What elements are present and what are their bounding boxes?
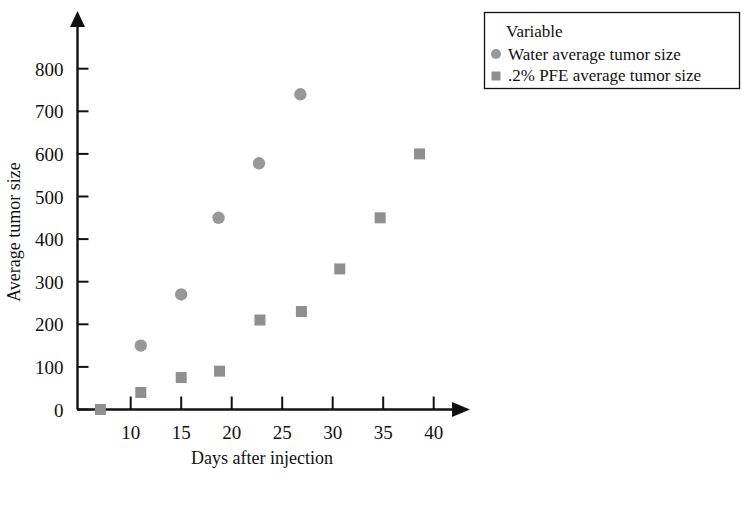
data-point-square: [254, 315, 265, 326]
data-point-circle: [294, 88, 306, 100]
y-tick-label: 0: [54, 400, 64, 421]
x-axis-title: Days after injection: [191, 448, 333, 468]
data-point-square: [214, 366, 225, 377]
data-point-circle: [253, 157, 265, 169]
x-tick-group: 10152025303540: [121, 397, 443, 443]
y-tick-label: 800: [35, 59, 64, 80]
y-tick-label: 600: [35, 144, 64, 165]
legend-label-pfe: .2% PFE average tumor size: [508, 66, 701, 85]
scatter-chart: 0100200300400500600700800 10152025303540…: [0, 0, 750, 510]
data-point-square: [296, 306, 307, 317]
data-point-square: [414, 148, 425, 159]
x-tick-label: 10: [121, 422, 140, 443]
legend-title: Variable: [506, 22, 563, 41]
y-tick-group: 0100200300400500600700800: [35, 59, 89, 421]
data-point-square: [135, 387, 146, 398]
legend-label-water: Water average tumor size: [508, 45, 681, 64]
data-point-square: [375, 212, 386, 223]
x-tick-label: 35: [374, 422, 393, 443]
x-axis-arrow-icon: [452, 402, 470, 417]
y-tick-label: 400: [35, 229, 64, 250]
y-tick-label: 200: [35, 314, 64, 335]
y-tick-label: 100: [35, 357, 64, 378]
chart-canvas: 0100200300400500600700800 10152025303540…: [0, 0, 750, 510]
y-axis-title: Average tumor size: [4, 162, 24, 302]
data-points-layer: [95, 88, 425, 415]
data-point-circle: [175, 288, 187, 300]
axis-group: [70, 11, 470, 417]
legend: Variable Water average tumor size .2% PF…: [485, 13, 740, 89]
x-tick-label: 15: [172, 422, 191, 443]
data-point-circle: [212, 212, 224, 224]
legend-circle-marker-icon: [491, 49, 501, 59]
y-axis-arrow-icon: [70, 11, 85, 27]
data-point-circle: [135, 339, 147, 351]
y-tick-label: 500: [35, 187, 64, 208]
data-point-square: [95, 404, 106, 415]
data-point-square: [176, 372, 187, 383]
x-tick-label: 30: [323, 422, 342, 443]
data-point-square: [334, 263, 345, 274]
y-tick-label: 700: [35, 101, 64, 122]
x-tick-label: 25: [273, 422, 292, 443]
legend-square-marker-icon: [492, 72, 501, 81]
x-tick-label: 20: [222, 422, 241, 443]
y-tick-label: 300: [35, 272, 64, 293]
x-tick-label: 40: [424, 422, 443, 443]
